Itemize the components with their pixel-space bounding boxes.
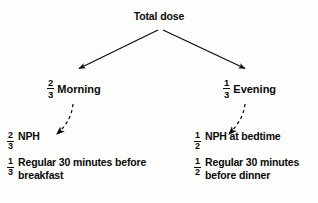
root-node-total-dose: Total dose xyxy=(0,10,318,22)
detail-text-regular-dinner: Regular 30 minutes before dinner xyxy=(205,156,313,181)
detail-text-nph: NPH xyxy=(18,130,40,143)
arrow-root-to-morning xyxy=(79,30,158,69)
fraction-one-third: 1 3 xyxy=(223,78,230,99)
fraction-two-thirds: 2 3 xyxy=(7,131,14,151)
branch-label-morning: Morning xyxy=(57,83,100,95)
fraction-one-half: 1 2 xyxy=(194,131,201,151)
detail-row: 1 2 Regular 30 minutes before dinner xyxy=(194,156,316,181)
insulin-dose-flowchart: Total dose 2 3 Morning 1 3 Evening 2 3 N… xyxy=(0,0,318,203)
detail-block-evening: 1 2 NPH at bedtime 1 2 Regular 30 minute… xyxy=(194,130,316,181)
arrow-root-to-evening xyxy=(163,30,245,69)
detail-row: 2 3 NPH xyxy=(7,130,157,151)
branch-node-morning: 2 3 Morning xyxy=(47,78,101,99)
detail-text-nph-bedtime: NPH at bedtime xyxy=(205,130,281,143)
detail-row: 1 3 Regular 30 minutes before breakfast xyxy=(7,156,157,181)
fraction-one-third: 1 3 xyxy=(7,157,14,177)
detail-row: 1 2 NPH at bedtime xyxy=(194,130,316,151)
branch-label-evening: Evening xyxy=(233,83,276,95)
detail-block-morning: 2 3 NPH 1 3 Regular 30 minutes before br… xyxy=(7,130,157,181)
detail-text-regular-breakfast: Regular 30 minutes before breakfast xyxy=(18,156,152,181)
fraction-two-thirds: 2 3 xyxy=(47,78,54,99)
branch-node-evening: 1 3 Evening xyxy=(223,78,276,99)
fraction-one-half: 1 2 xyxy=(194,157,201,177)
